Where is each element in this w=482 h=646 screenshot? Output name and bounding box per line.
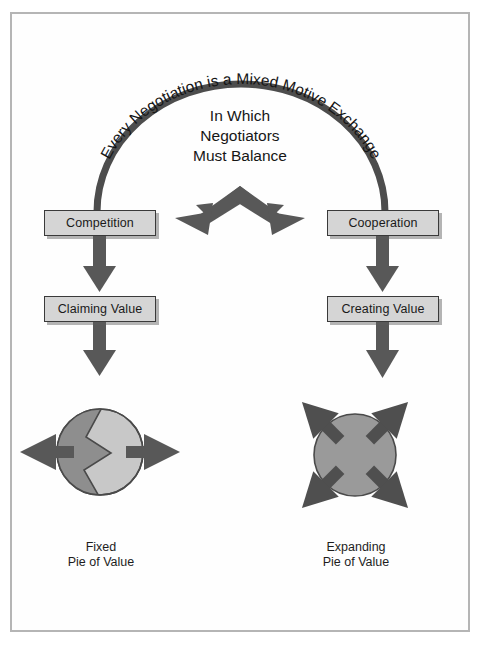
caption-expanding-pie-line-2: Pie of Value — [295, 555, 417, 570]
node-box-competition[interactable]: Competition — [44, 210, 156, 236]
caption-expanding-pie: Expanding Pie of Value — [295, 540, 417, 570]
arrow-down-competition-to-claiming-icon — [83, 236, 116, 292]
caption-fixed-pie-line-2: Pie of Value — [40, 555, 162, 570]
fixed-pie-graphic — [20, 400, 180, 505]
node-box-cooperation[interactable]: Cooperation — [327, 210, 439, 236]
arrow-down-cooperation-to-creating-icon — [366, 236, 399, 292]
center-heading: In Which Negotiators Must Balance — [160, 106, 320, 166]
caption-expanding-pie-line-1: Expanding — [295, 540, 417, 555]
node-box-creating-value[interactable]: Creating Value — [327, 296, 439, 322]
center-heading-line-3: Must Balance — [160, 146, 320, 166]
split-arrow-icon — [175, 186, 305, 235]
center-heading-line-1: In Which — [160, 106, 320, 126]
caption-fixed-pie-line-1: Fixed — [40, 540, 162, 555]
node-box-claiming-value[interactable]: Claiming Value — [44, 296, 156, 322]
arrow-down-claiming-to-pie-icon — [83, 322, 116, 376]
arrow-down-creating-to-pie-icon — [366, 322, 399, 378]
caption-fixed-pie: Fixed Pie of Value — [40, 540, 162, 570]
diagram-canvas: Every Negotiation is a Mixed Motive Exch… — [0, 0, 482, 646]
center-heading-line-2: Negotiators — [160, 126, 320, 146]
expanding-pie-graphic — [289, 389, 421, 521]
